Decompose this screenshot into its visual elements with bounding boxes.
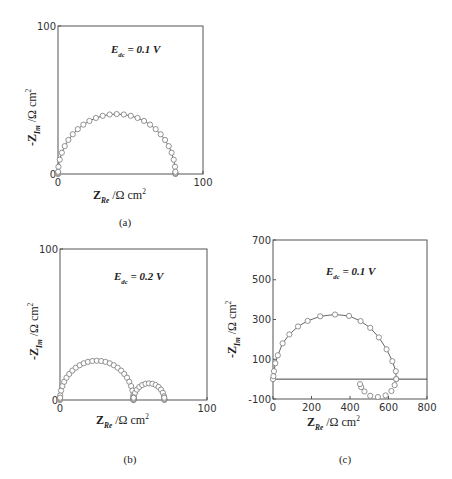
data-point [166,144,171,149]
y-tick-label: 700 [252,235,271,246]
data-point [271,369,276,374]
data-point [332,312,337,317]
chart-panel-b: 01000100Edc = 0.2 VZRe /Ω cm2-ZIm /Ω cm2… [26,244,217,467]
fit-line [58,114,175,174]
data-point [273,361,278,366]
data-point [135,115,140,120]
eis-nyquist-figure: 01000100Edc = 0.1 VZRe /Ω cm2-ZIm /Ω cm2… [0,0,452,479]
data-point [368,325,373,330]
edc-annotation: Edc = 0.2 V [113,270,165,285]
data-point [275,353,280,358]
x-tick-label: 400 [340,402,359,413]
data-point [390,359,395,364]
data-point [346,313,351,318]
y-axis-label: -ZIm /Ω cm2 [224,300,243,358]
data-point [318,314,323,319]
data-point [57,157,62,162]
data-point [169,150,174,155]
plot-frame [273,240,427,399]
chart-panel-c: 0200400600800-100100300500700Edc = 0.1 V… [224,235,437,467]
data-point [172,164,177,169]
data-point [171,157,176,162]
chart-panel-a: 01000100Edc = 0.1 VZRe /Ω cm2-ZIm /Ω cm2… [24,21,213,230]
y-tick-label: 100 [39,244,58,255]
data-point [131,395,136,400]
data-point [81,122,86,127]
data-point [393,369,398,374]
data-point [153,127,158,132]
x-axis-label: ZRe /Ω cm2 [96,412,149,431]
data-point [62,144,67,149]
x-tick-label: 600 [379,402,398,413]
data-point [147,122,152,127]
data-point [357,381,362,386]
data-point [394,377,399,382]
data-point [287,332,292,337]
data-point [280,341,285,346]
data-point [389,388,394,393]
data-point [128,113,133,118]
data-point [66,137,71,142]
x-tick-label: 800 [417,402,436,413]
data-point [141,118,146,123]
data-point [114,111,119,116]
data-point [384,347,389,352]
data-point [107,112,112,117]
data-point [392,382,397,387]
x-tick-label: 100 [193,177,212,188]
data-point [295,324,300,329]
data-point [93,115,98,120]
data-point [56,169,61,174]
data-point [376,335,381,340]
y-tick-label: 500 [252,274,271,285]
panel-caption: (a) [119,216,132,229]
fit-line [273,315,396,380]
panel-caption: (b) [124,453,137,466]
y-axis-label: -ZIm /Ω cm2 [24,88,43,146]
x-tick-label: 200 [302,402,321,413]
data-point [173,169,178,174]
x-axis-label: ZRe /Ω cm2 [307,414,360,433]
data-point [59,150,64,155]
data-point [56,164,61,169]
data-point [383,393,388,398]
y-tick-label: 300 [252,314,271,325]
y-tick-label: -100 [248,394,271,405]
data-point [368,393,373,398]
data-point [100,113,105,118]
panel-caption: (c) [339,453,352,466]
data-point [121,112,126,117]
data-point [70,132,75,137]
data-point [162,395,167,400]
y-tick-label: 100 [252,354,271,365]
data-point [58,395,63,400]
data-point [162,137,167,142]
data-point [358,318,363,323]
edc-annotation: Edc = 0.1 V [110,43,162,58]
data-point [375,394,380,399]
data-point [158,132,163,137]
y-axis-label: -ZIm /Ω cm2 [26,302,45,360]
edc-annotation: Edc = 0.1 V [325,265,377,280]
data-point [75,127,80,132]
x-tick-label: 100 [197,403,216,414]
data-point [87,118,92,123]
x-axis-label: ZRe /Ω cm2 [93,187,146,206]
y-tick-label: 100 [37,21,56,32]
data-point [271,374,276,379]
data-point [305,318,310,323]
